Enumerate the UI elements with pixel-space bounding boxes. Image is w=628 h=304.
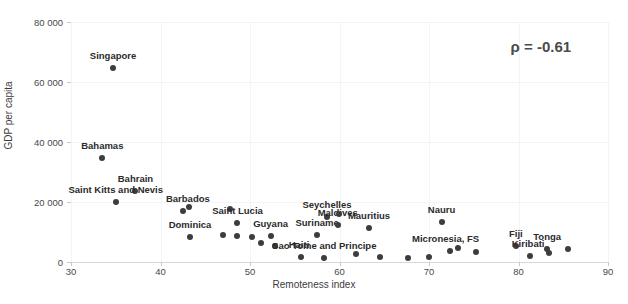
point-label: Suriname: [295, 217, 338, 228]
x-axis-title: Remoteness index: [0, 279, 628, 290]
x-tick-label: 70: [424, 266, 435, 277]
y-tick-mark: [67, 262, 71, 263]
plot-area: SingaporeBahamasBahrainSaint Kitts and N…: [71, 22, 608, 262]
data-point[interactable]: [234, 233, 240, 239]
x-tick-label: 60: [334, 266, 345, 277]
data-point-guyana[interactable]: [268, 233, 274, 239]
y-tick-mark: [67, 142, 71, 143]
y-tick-label: 60 000: [34, 77, 63, 88]
y-tick-mark: [67, 82, 71, 83]
y-tick-label: 80 000: [34, 17, 63, 28]
point-label: Singapore: [90, 50, 136, 61]
y-tick-label: 40 000: [34, 137, 63, 148]
data-point[interactable]: [546, 250, 552, 256]
x-tick-label: 40: [155, 266, 166, 277]
y-tick-label: 20 000: [34, 197, 63, 208]
data-point-maldives[interactable]: [335, 222, 341, 228]
gridline-horizontal: [71, 142, 608, 143]
data-point[interactable]: [249, 234, 255, 240]
data-point-nauru[interactable]: [439, 219, 445, 225]
data-point-sao-tome-and-principe[interactable]: [321, 255, 327, 261]
data-point-barbados[interactable]: [180, 208, 186, 214]
x-tick-label: 30: [66, 266, 77, 277]
point-label: Micronesia, FS: [412, 233, 479, 244]
data-point[interactable]: [353, 251, 359, 257]
data-point[interactable]: [473, 249, 479, 255]
gridline-horizontal: [71, 82, 608, 83]
data-point[interactable]: [377, 254, 383, 260]
data-point-singapore[interactable]: [110, 65, 116, 71]
data-point-saint-lucia[interactable]: [234, 220, 240, 226]
gridline-vertical: [608, 22, 609, 262]
correlation-annotation: ρ = -0.61: [511, 38, 572, 55]
data-point[interactable]: [258, 240, 264, 246]
data-point[interactable]: [186, 204, 192, 210]
data-point[interactable]: [565, 246, 571, 252]
x-tick-label: 80: [513, 266, 524, 277]
x-tick-label: 50: [245, 266, 256, 277]
point-label: Bahamas: [81, 140, 123, 151]
point-label: Saint Lucia: [212, 205, 263, 216]
data-point-micronesia-fs[interactable]: [447, 248, 453, 254]
point-label: Dominica: [169, 219, 212, 230]
data-point[interactable]: [220, 232, 226, 238]
data-point[interactable]: [426, 254, 432, 260]
data-point-kiribati[interactable]: [527, 253, 533, 259]
point-label: Bahrain: [118, 173, 153, 184]
point-label: Saint Kitts and Nevis: [69, 184, 164, 195]
data-point-bahamas[interactable]: [99, 155, 105, 161]
y-axis-title: GDP per capita: [3, 46, 14, 186]
point-label: Mauritius: [348, 210, 390, 221]
data-point-saint-kitts-and-nevis[interactable]: [113, 199, 119, 205]
data-point[interactable]: [405, 255, 411, 261]
point-label: Tonga: [533, 231, 561, 242]
point-label: Nauru: [428, 204, 455, 215]
data-point-dominica[interactable]: [187, 234, 193, 240]
data-point-haiti[interactable]: [298, 254, 304, 260]
point-label: Barbados: [166, 193, 210, 204]
point-label: Sao Tome and Principe: [272, 240, 376, 251]
y-tick-mark: [67, 22, 71, 23]
data-point-suriname[interactable]: [314, 232, 320, 238]
gridline-horizontal: [71, 22, 608, 23]
data-point[interactable]: [336, 211, 342, 217]
y-tick-mark: [67, 202, 71, 203]
data-point[interactable]: [455, 245, 461, 251]
y-tick-label: 0: [58, 257, 63, 268]
scatter-plot-figure: SingaporeBahamasBahrainSaint Kitts and N…: [0, 0, 628, 304]
data-point-mauritius[interactable]: [366, 225, 372, 231]
x-tick-label: 90: [603, 266, 614, 277]
point-label: Guyana: [253, 218, 288, 229]
